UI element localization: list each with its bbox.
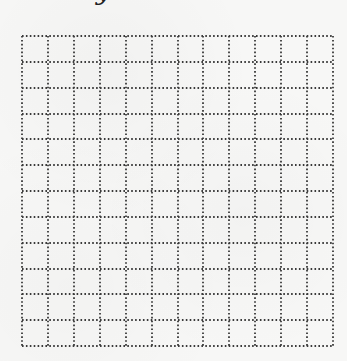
dotted-grid (22, 36, 333, 346)
grid-lines (20, 34, 335, 348)
cropped-title-text: y (96, 0, 111, 4)
